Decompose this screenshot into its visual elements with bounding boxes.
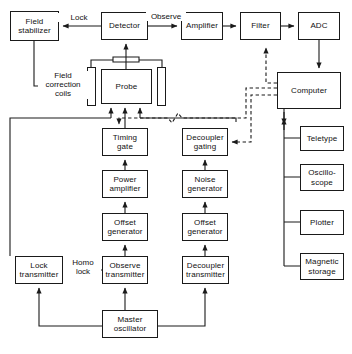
node-magnetic-storage[interactable]: Magnetic storage [300, 253, 344, 280]
node-field-stabilizer[interactable]: Field stabilizer [10, 11, 59, 41]
node-noise-generator[interactable]: Noise generator [182, 170, 228, 198]
node-decoupler-gating[interactable]: Decoupler gating [182, 128, 228, 156]
edge-computer-to-filter-control [266, 48, 277, 83]
edge-label-lock: Lock [58, 13, 100, 22]
field-correction-coil-left [87, 67, 96, 106]
node-plotter[interactable]: Plotter [300, 210, 344, 235]
node-oscilloscope[interactable]: Oscillo- scope [300, 164, 344, 191]
node-timing-gate[interactable]: Timing gate [102, 128, 148, 156]
edge-label-observe: Observe [146, 12, 186, 21]
node-offset-generator-timing[interactable]: Offset generator [102, 213, 148, 241]
node-teletype[interactable]: Teletype [300, 126, 344, 151]
node-probe[interactable]: Probe [101, 69, 152, 104]
nmr-block-diagram: Field stabilizer Detector Amplifier Filt… [0, 0, 352, 354]
node-power-amplifier[interactable]: Power amplifier [102, 170, 148, 198]
edge-label-field-correction-coils: Field correction coils [38, 71, 88, 99]
node-offset-generator-decoupler[interactable]: Offset generator [182, 213, 228, 241]
edge-master-oscillator-to-decoupler-transmitter [158, 288, 205, 326]
node-computer[interactable]: Computer [277, 72, 341, 109]
node-filter[interactable]: Filter [240, 12, 281, 40]
node-amplifier[interactable]: Amplifier [181, 12, 223, 40]
node-master-oscillator[interactable]: Master oscillator [102, 310, 158, 338]
field-correction-coil-right [157, 67, 166, 106]
node-observe-transmitter[interactable]: Observe transmitter [102, 256, 148, 284]
node-decoupler-transmitter[interactable]: Decoupler transmitter [182, 256, 229, 284]
edge-label-homo-lock: Homo lock [65, 258, 101, 276]
node-lock-transmitter[interactable]: Lock transmitter [15, 256, 63, 284]
edge-decoupler-bus [140, 118, 236, 122]
edge-master-oscillator-to-lock-transmitter [39, 288, 102, 326]
edge-lock-transmitter-bus [10, 118, 111, 256]
edge-computer-peripheral-bus [284, 109, 300, 266]
node-adc[interactable]: ADC [298, 12, 340, 40]
node-detector[interactable]: Detector [101, 12, 148, 40]
